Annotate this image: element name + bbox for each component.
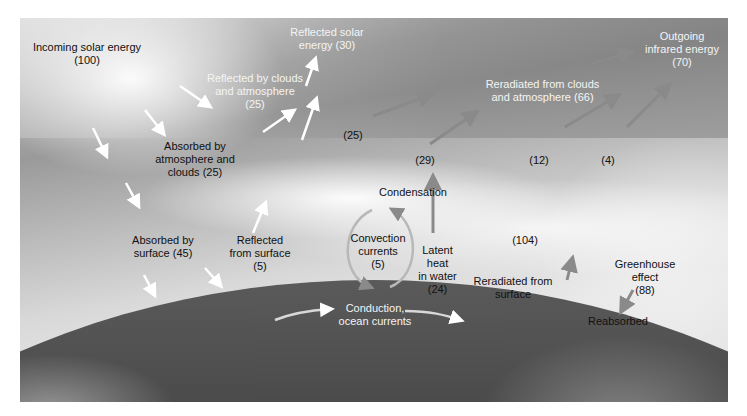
label-value: and atmosphere (66)	[480, 91, 605, 104]
value-104: (104)	[508, 234, 542, 247]
label-text: infrared energy	[642, 43, 722, 56]
label-value: (70)	[642, 56, 722, 69]
label-value: (88)	[610, 284, 680, 297]
label-value: surface (45)	[128, 247, 198, 260]
label-value: (100)	[32, 54, 142, 67]
label-text: Outgoing	[642, 30, 722, 43]
label-text: effect	[610, 271, 680, 284]
label-text: currents	[348, 245, 408, 258]
label-text: Conduction,	[335, 302, 415, 315]
value-29: (29)	[410, 154, 440, 167]
label-reradiated-clouds: Reradiated from clouds and atmosphere (6…	[480, 78, 605, 104]
label-text: Convection	[348, 232, 408, 245]
value-4: (4)	[596, 154, 620, 167]
label-reflected-surface: Reflected from surface (5)	[225, 234, 295, 273]
label-text: in water	[415, 270, 460, 283]
label-value: (24)	[415, 283, 460, 296]
label-text: Reflected	[225, 234, 295, 247]
label-text: atmosphere and	[155, 153, 235, 166]
label-text: Reradiated from clouds	[480, 78, 605, 91]
label-text: Reradiated from	[468, 275, 558, 288]
label-absorbed-surface: Absorbed by surface (45)	[128, 234, 198, 260]
label-text: Latent	[415, 244, 460, 257]
label-value: (5)	[348, 258, 408, 271]
label-outgoing-infrared: Outgoing infrared energy (70)	[642, 30, 722, 69]
label-value: (5)	[225, 260, 295, 273]
label-text: and atmosphere	[205, 85, 305, 98]
label-value: (25)	[205, 98, 305, 111]
label-text: Greenhouse	[610, 258, 680, 271]
value-25: (25)	[338, 129, 368, 142]
label-reflected-clouds: Reflected by clouds and atmosphere (25)	[205, 72, 305, 111]
incoming-solar-arrows	[93, 86, 220, 294]
label-text: Reflected solar	[282, 26, 372, 39]
label-reradiated-surface: Reradiated from surface	[468, 275, 558, 301]
label-value: energy (30)	[282, 39, 372, 52]
label-absorbed-atmosphere: Absorbed by atmosphere and clouds (25)	[155, 140, 235, 179]
label-incoming-solar: Incoming solar energy (100)	[32, 41, 142, 67]
label-text: Reflected by clouds	[205, 72, 305, 85]
value-12: (12)	[524, 154, 554, 167]
label-text: surface	[468, 288, 558, 301]
label-text: Absorbed by	[155, 140, 235, 153]
label-value: clouds (25)	[155, 166, 235, 179]
label-conduction: Conduction, ocean currents	[335, 302, 415, 328]
label-greenhouse-effect: Greenhouse effect (88)	[610, 258, 680, 297]
label-reabsorbed: Reabsorbed	[583, 315, 653, 328]
label-convection: Convection currents (5)	[348, 232, 408, 271]
label-condensation: Condensation	[378, 186, 448, 199]
label-text: Absorbed by	[128, 234, 198, 247]
label-text: heat	[415, 257, 460, 270]
label-text: Incoming solar energy	[32, 41, 142, 54]
label-text: from surface	[225, 247, 295, 260]
label-text: ocean currents	[335, 315, 415, 328]
label-reflected-solar: Reflected solar energy (30)	[282, 26, 372, 52]
label-latent-heat: Latent heat in water (24)	[415, 244, 460, 296]
